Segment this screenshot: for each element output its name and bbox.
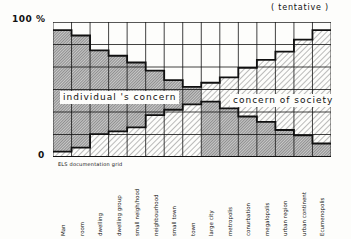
x-axis-tick-label-wrap: megalopolis — [257, 168, 275, 236]
x-axis-tick-label-wrap: urban region — [275, 168, 293, 236]
x-axis-tick-label: small town — [171, 206, 177, 236]
x-axis-tick-label: Man — [60, 224, 66, 236]
column-3 — [109, 56, 128, 157]
x-axis-tick-label: megalopolis — [264, 203, 270, 236]
y-axis-label-0: 0 — [38, 150, 45, 160]
x-axis-tick-label-wrap: conurbation — [238, 168, 256, 236]
x-axis-tick-label-wrap: small town — [164, 168, 182, 236]
x-axis-tick-label-wrap: Man — [53, 168, 71, 236]
x-axis-tick-label-wrap: metropolis — [220, 168, 238, 236]
x-axis-tick-label: town — [190, 222, 196, 236]
x-axis-tick-label-wrap: urban continent — [294, 168, 312, 236]
tentative-note: ( tentative ) — [271, 3, 329, 12]
column-8 — [201, 83, 220, 157]
x-axis-tick-label-wrap: large city — [201, 168, 219, 236]
x-axis-tick-label-wrap: small neigh/hood — [127, 168, 145, 236]
x-axis-tick-label: Ecumenopolis — [319, 198, 325, 236]
society-concern-label: concern of society — [230, 94, 336, 107]
x-axis-tick-label: urban continent — [301, 192, 307, 236]
chart-plot-area — [53, 22, 331, 157]
x-axis-tick-label: dwelling group — [116, 195, 122, 236]
x-axis-tick-label-wrap: dwelling — [90, 168, 108, 236]
individual-concern-label: individual 's concern — [60, 91, 179, 104]
column-5 — [146, 71, 165, 157]
x-axis-tick-label: urban region — [282, 201, 288, 236]
column-4 — [127, 63, 146, 158]
x-axis-tick-label: dwelling — [97, 213, 103, 236]
x-axis-tick-label-wrap: Ecumenopolis — [312, 168, 330, 236]
x-axis-tick-label-wrap: room — [72, 168, 90, 236]
x-axis-tick-label-wrap: town — [183, 168, 201, 236]
column-10 — [238, 68, 257, 157]
x-axis-tick-label: large city — [208, 210, 214, 236]
y-axis-label-100: 100 % — [12, 14, 45, 24]
column-11 — [257, 60, 276, 157]
chart-graphic — [53, 22, 331, 157]
x-axis-tick-label: metropolis — [227, 207, 233, 236]
chart-caption: ELS documentation grid — [58, 161, 122, 167]
column-7 — [183, 87, 202, 157]
x-axis-tick-label-wrap: neighbourhood — [146, 168, 164, 236]
x-axis-tick-label: conurbation — [245, 203, 251, 236]
x-axis-tick-label: small neigh/hood — [134, 189, 140, 236]
x-axis-tick-label: neighbourhood — [153, 194, 159, 236]
x-axis-tick-label-wrap: dwelling group — [109, 168, 127, 236]
x-axis-tick-label: room — [79, 222, 85, 236]
